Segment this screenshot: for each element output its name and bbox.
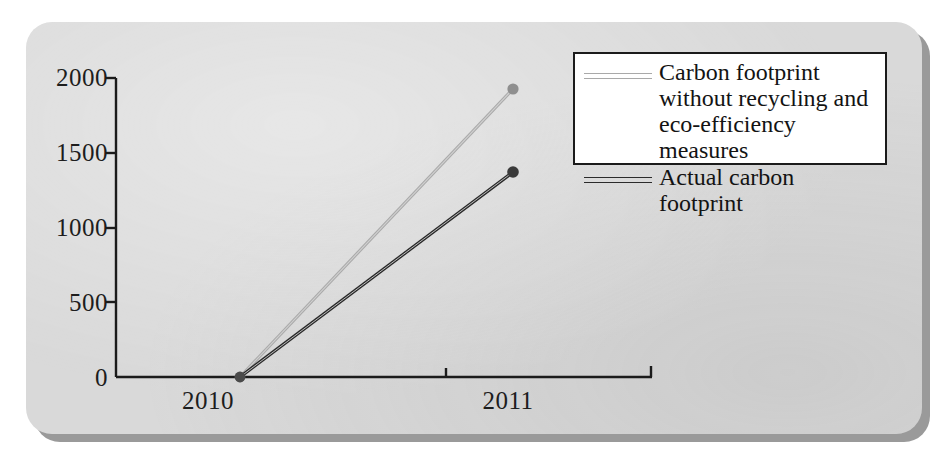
y-tick-label-1000: 1000 <box>56 215 108 240</box>
x-tick-label-2011: 2011 <box>460 388 556 413</box>
legend-label-actual: Actual carbon footprint <box>659 165 880 217</box>
legend-swatch-dark-line-icon <box>582 170 654 192</box>
y-tick-label-500: 500 <box>69 290 108 315</box>
chart-screenshot: 2000 1500 1000 500 0 2010 2011 Carbon fo… <box>0 0 946 466</box>
series-point-dark-2010 <box>235 372 246 383</box>
series-line-dark-inner <box>240 172 513 377</box>
y-axis-tick-labels: 2000 1500 1000 500 0 <box>36 0 108 466</box>
x-tick-label-2010: 2010 <box>160 388 256 413</box>
series-carbon-footprint-without-measures <box>235 83 519 382</box>
series-point-light-2011 <box>507 83 518 94</box>
y-tick-label-0: 0 <box>95 365 108 390</box>
legend-swatch-light-line-icon <box>582 66 654 88</box>
y-tick-label-2000: 2000 <box>56 65 108 90</box>
series-actual-carbon-footprint <box>235 166 519 382</box>
legend-label-without-measures: Carbon footprint without recycling and e… <box>659 60 880 164</box>
series-line-light-inner <box>240 89 513 377</box>
chart-legend: Carbon footprint without recycling and e… <box>573 52 887 165</box>
legend-item-without-measures: Carbon footprint without recycling and e… <box>582 60 880 164</box>
x-axis-ticks <box>446 366 651 377</box>
series-point-dark-2011 <box>507 166 519 178</box>
legend-item-actual: Actual carbon footprint <box>582 165 880 217</box>
y-tick-label-1500: 1500 <box>56 140 108 165</box>
